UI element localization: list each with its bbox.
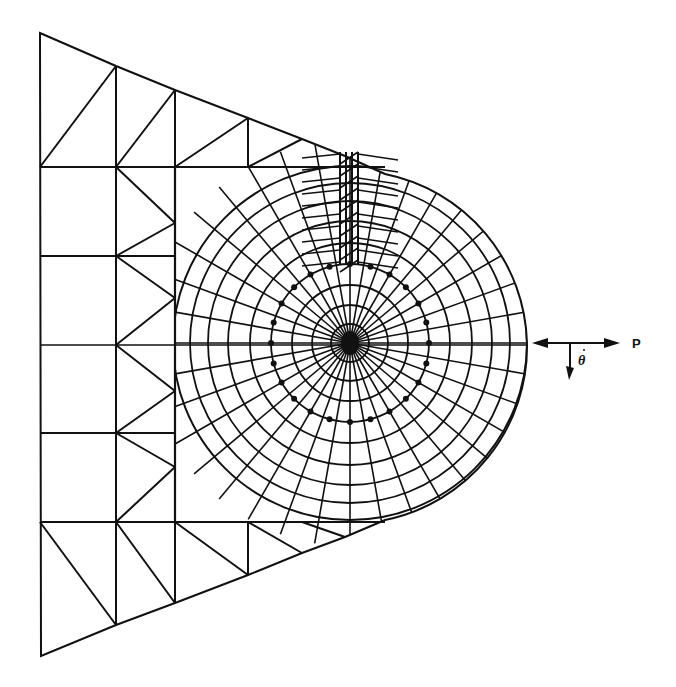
polar-mesh — [0, 0, 554, 687]
rotation-label-theta: θ — [578, 353, 585, 369]
load-arrows — [532, 338, 620, 380]
theta-dot-icon — [583, 349, 585, 351]
force-label-p: P — [632, 336, 641, 351]
fem-mesh-diagram — [0, 0, 676, 687]
